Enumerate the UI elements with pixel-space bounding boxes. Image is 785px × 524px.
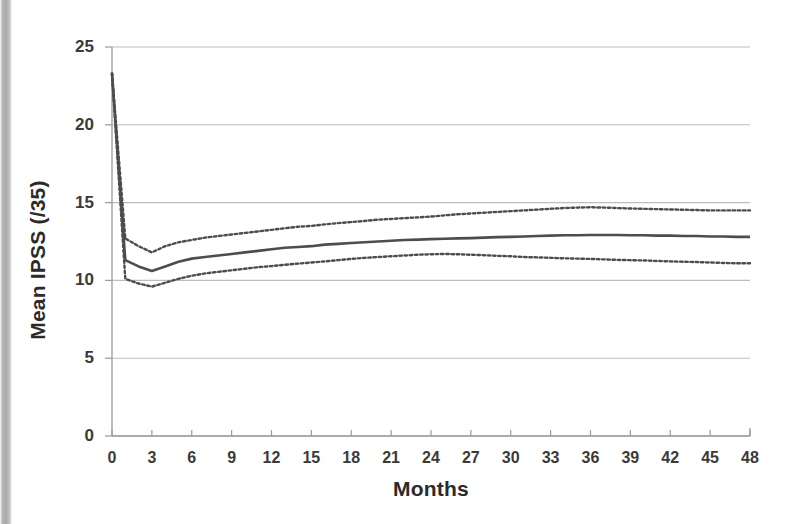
x-tick-label-48: 48 <box>733 450 767 466</box>
x-tick-label-15: 15 <box>294 450 328 466</box>
x-tick-label-33: 33 <box>534 450 568 466</box>
series-path-1 <box>112 73 750 252</box>
axis-lines-group <box>112 47 750 436</box>
chart-plot-region: 2520151050 03691215182124273033363942454… <box>0 0 785 524</box>
x-tick-label-18: 18 <box>334 450 368 466</box>
x-axis-title: Months <box>112 477 750 501</box>
x-tick-label-39: 39 <box>613 450 647 466</box>
series-path-2 <box>112 73 750 286</box>
y-tick-marks-group <box>105 47 112 436</box>
x-tick-label-30: 30 <box>494 450 528 466</box>
series-path-0 <box>112 73 750 271</box>
y-tick-label-25: 25 <box>48 38 94 55</box>
x-tick-marks-group <box>112 430 750 436</box>
chart-figure: 2520151050 03691215182124273033363942454… <box>0 0 785 524</box>
x-tick-label-21: 21 <box>374 450 408 466</box>
x-tick-label-3: 3 <box>135 450 169 466</box>
x-tick-label-6: 6 <box>175 450 209 466</box>
x-tick-label-0: 0 <box>95 450 129 466</box>
x-tick-label-12: 12 <box>255 450 289 466</box>
x-tick-label-24: 24 <box>414 450 448 466</box>
x-tick-label-27: 27 <box>454 450 488 466</box>
gridlines-group <box>112 47 750 436</box>
y-tick-label-5: 5 <box>48 349 94 366</box>
y-tick-label-10: 10 <box>48 271 94 288</box>
y-axis-title: Mean IPSS (/35) <box>26 160 50 360</box>
x-tick-label-42: 42 <box>653 450 687 466</box>
x-tick-label-9: 9 <box>215 450 249 466</box>
x-tick-label-36: 36 <box>574 450 608 466</box>
y-tick-label-20: 20 <box>48 116 94 133</box>
x-tick-label-45: 45 <box>693 450 727 466</box>
y-tick-label-15: 15 <box>48 194 94 211</box>
y-tick-label-0: 0 <box>48 427 94 444</box>
line-chart-svg <box>0 0 785 524</box>
data-series-group <box>112 73 750 286</box>
